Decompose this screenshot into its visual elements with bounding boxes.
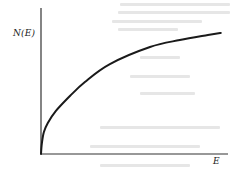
y-axis-label: N(E) (13, 28, 35, 38)
x-axis-label: E (213, 156, 220, 166)
chart-canvas (0, 0, 241, 178)
scan-bleed-through (90, 3, 230, 167)
